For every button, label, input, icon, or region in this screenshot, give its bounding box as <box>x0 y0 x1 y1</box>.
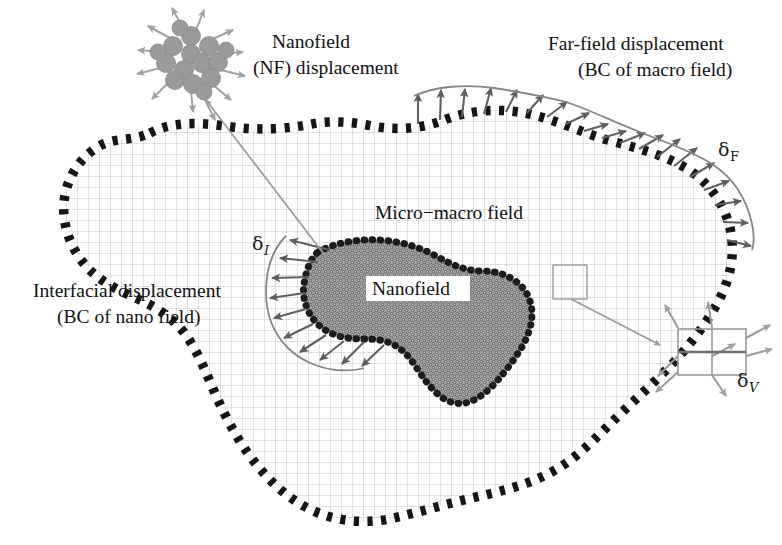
label-interfacial-line2: (BC of nano field) <box>57 306 201 328</box>
diagram-svg: Nanofield (NF) displacement Far-field di… <box>0 0 782 545</box>
delta-V-subscript: V <box>749 380 760 395</box>
label-far-field-line1: Far-field displacement <box>548 33 724 54</box>
label-interfacial-line1: Interfacial displacement <box>33 280 221 301</box>
label-nanofield-inset-line2: (NF) displacement <box>253 57 399 79</box>
figure-canvas: Nanofield (NF) displacement Far-field di… <box>0 0 782 545</box>
label-far-field-line2: (BC of macro field) <box>578 59 732 81</box>
delta-I-subscript: I <box>263 243 270 258</box>
delta-F-subscript: F <box>730 149 739 164</box>
delta-F-glyph: δ <box>718 138 729 160</box>
delta-I-glyph: δ <box>252 232 263 254</box>
label-micro-macro-field: Micro−macro field <box>375 202 523 223</box>
delta-V-glyph: δ <box>737 369 748 391</box>
label-nanofield-inset-line1: Nanofield <box>272 31 350 52</box>
label-nanofield-region: Nanofield <box>372 278 450 299</box>
